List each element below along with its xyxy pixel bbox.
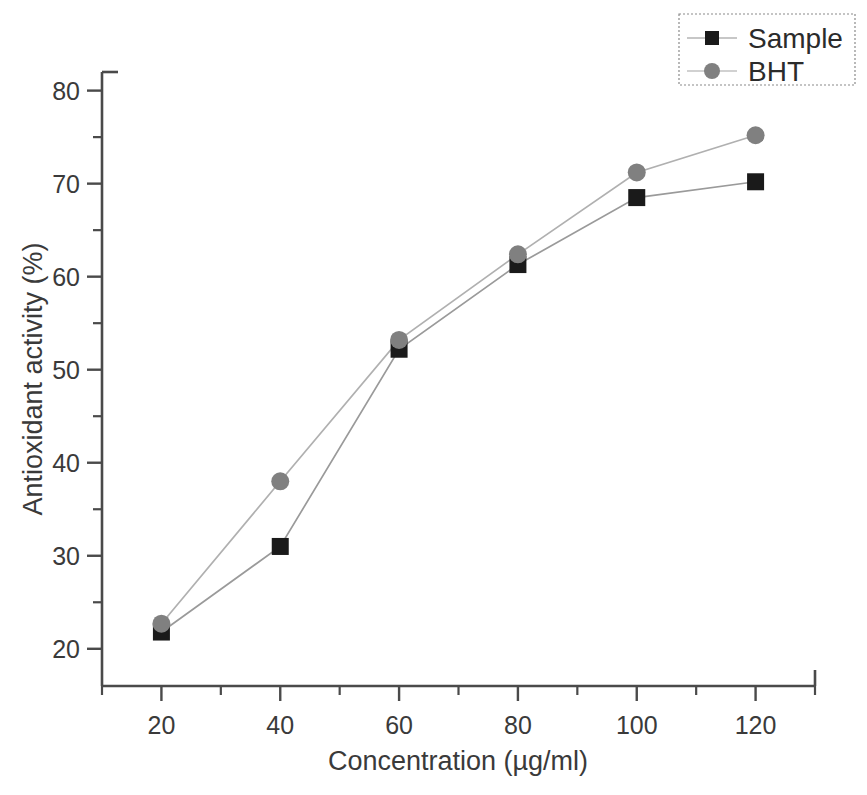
square-marker-icon	[705, 31, 719, 45]
y-tick-label: 60	[52, 263, 80, 291]
x-tick-label: 80	[504, 711, 532, 739]
y-tick-label: 70	[52, 170, 80, 198]
data-point-marker-square	[628, 189, 645, 206]
y-tick-label: 50	[52, 356, 80, 384]
chart-background	[0, 0, 867, 795]
data-point-marker-circle	[747, 126, 765, 144]
x-tick-label: 20	[148, 711, 176, 739]
data-point-marker-circle	[628, 163, 646, 181]
x-tick-label: 120	[735, 711, 777, 739]
y-tick-label: 20	[52, 635, 80, 663]
circle-marker-icon	[704, 63, 720, 79]
data-point-marker-circle	[152, 615, 170, 633]
x-axis-title: Concentration (µg/ml)	[328, 746, 588, 776]
y-axis-title: Antioxidant activity (%)	[18, 242, 48, 515]
y-tick-label: 30	[52, 542, 80, 570]
antioxidant-activity-chart: 20304050607080 20406080100120 Concentrat…	[0, 0, 867, 795]
legend-label-bht: BHT	[748, 56, 804, 87]
x-tick-label: 40	[266, 711, 294, 739]
data-point-marker-circle	[390, 331, 408, 349]
y-tick-label: 80	[52, 77, 80, 105]
x-tick-label: 100	[616, 711, 658, 739]
y-tick-label: 40	[52, 449, 80, 477]
data-point-marker-square	[747, 173, 764, 190]
data-point-marker-circle	[271, 472, 289, 490]
x-tick-label: 60	[385, 711, 413, 739]
legend-label-sample: Sample	[748, 23, 843, 54]
chart-canvas: 20304050607080 20406080100120 Concentrat…	[0, 0, 867, 795]
chart-legend: Sample BHT	[679, 14, 855, 87]
data-point-marker-square	[272, 538, 289, 555]
data-point-marker-circle	[509, 245, 527, 263]
